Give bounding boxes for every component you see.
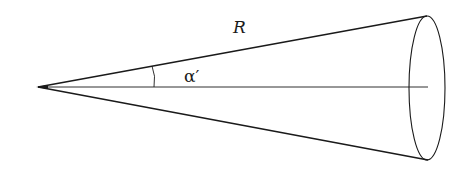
half-angle-label: α′ [184, 68, 199, 85]
cone-bottom-edge [38, 87, 428, 160]
slant-length-label: R [233, 19, 246, 36]
cone-diagram: R α′ [0, 0, 470, 172]
cone-base-ellipse [409, 16, 445, 160]
angle-arc [152, 66, 155, 87]
